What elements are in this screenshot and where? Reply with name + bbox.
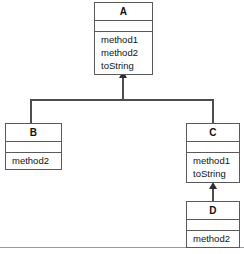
uml-class-b-name: B (6, 124, 61, 141)
uml-class-d-name: D (187, 202, 239, 219)
uml-class-b[interactable]: B method2 (5, 123, 62, 170)
uml-operation: toString (101, 59, 152, 72)
uml-operation: toString (193, 167, 239, 180)
uml-class-b-operations: method2 (6, 152, 61, 169)
uml-class-diagram: A method1 method2 toString B method2 C m… (0, 0, 244, 254)
uml-class-a-attributes (95, 20, 152, 31)
uml-class-d-operations: method2 (187, 230, 239, 247)
uml-class-c-attributes (187, 141, 239, 152)
uml-operation: method1 (193, 154, 239, 167)
uml-class-a[interactable]: A method1 method2 toString (94, 2, 153, 75)
generalization-branch-b (30, 99, 32, 124)
uml-class-a-operations: method1 method2 toString (95, 31, 152, 74)
generalization-stub-to-a (122, 77, 124, 101)
uml-class-b-attributes (6, 141, 61, 152)
generalization-crossbar (30, 99, 214, 101)
uml-class-d-attributes (187, 219, 239, 230)
uml-class-c-operations: method1 toString (187, 152, 239, 182)
uml-operation: method2 (193, 232, 239, 245)
uml-operation: method2 (101, 46, 152, 59)
uml-operation: method1 (101, 33, 152, 46)
generalization-branch-c (212, 99, 214, 124)
uml-class-a-name: A (95, 3, 152, 20)
generalization-arrowhead-to-c (209, 182, 217, 189)
uml-class-c[interactable]: C method1 toString (186, 123, 240, 183)
uml-class-c-name: C (187, 124, 239, 141)
uml-class-d[interactable]: D method2 (186, 201, 240, 248)
generalization-line-d-to-c (212, 188, 214, 202)
uml-operation: method2 (12, 154, 61, 167)
